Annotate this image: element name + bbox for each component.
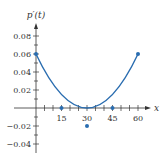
y-tick-label: 0.02 (13, 86, 31, 95)
y-tick-label: 0.04 (13, 68, 31, 77)
x-axis-label: x (154, 103, 159, 113)
y-tick-label: 0.06 (13, 50, 31, 59)
y-axis-arrow-icon (34, 23, 38, 29)
y-axis-label: p′(t) (27, 10, 46, 20)
data-point (85, 124, 89, 128)
x-tick-label: 30 (82, 114, 92, 123)
data-point (60, 106, 64, 110)
y-tick-label: −0.02 (6, 122, 31, 131)
data-point (111, 106, 115, 110)
curve (36, 54, 138, 108)
y-tick-label: 0.08 (13, 32, 31, 41)
chart: 0.08 0.06 0.04 0.02 −0.02 −0.04 15 30 45… (0, 0, 160, 161)
x-axis-arrow-icon (145, 106, 151, 110)
x-tick-label: 45 (107, 114, 117, 123)
data-point (34, 52, 38, 56)
x-tick-label: 15 (56, 114, 66, 123)
x-tick-label: 60 (133, 114, 143, 123)
data-point (136, 52, 140, 56)
y-tick-label: −0.04 (6, 140, 31, 149)
